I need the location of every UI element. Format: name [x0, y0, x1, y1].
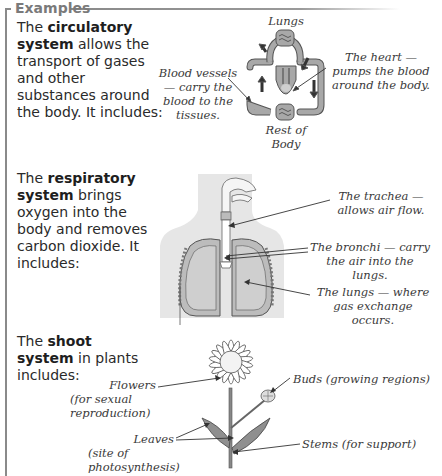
respiratory-diagram	[160, 174, 330, 325]
label-leaves: Leaves	[100, 432, 174, 446]
label-buds: Buds (growing regions)	[293, 372, 438, 386]
label-flowers: Flowers	[68, 378, 156, 392]
label-trachea: The trachea — allows air flow.	[335, 189, 427, 217]
label-stems: Stems (for support)	[302, 437, 432, 451]
label-flowers-note: (for sexual reproduction)	[70, 392, 210, 420]
label-rest-of-body: Rest of Body	[250, 123, 322, 151]
label-lungs: Lungs	[258, 14, 314, 28]
circulatory-diagram	[228, 30, 326, 120]
label-heart: The heart — pumps the blood around the b…	[326, 50, 436, 92]
label-bronchi: The bronchi — carry the air into the lun…	[310, 240, 430, 282]
label-leaves-note: (site of photosynthesis)	[88, 446, 218, 474]
label-blood-vessels: Blood vessels — carry the blood to the t…	[158, 66, 238, 122]
label-lungs-respiratory: The lungs — where gas exchange occurs.	[312, 285, 434, 327]
